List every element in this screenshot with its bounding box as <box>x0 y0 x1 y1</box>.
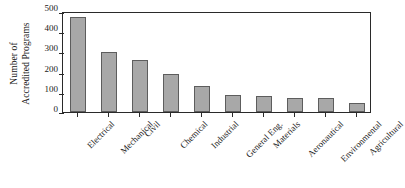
bar <box>225 95 241 112</box>
bar <box>256 96 272 112</box>
y-axis-tick-label: 300 <box>45 44 59 53</box>
bar <box>132 60 148 112</box>
x-axis-category-label-text: Industrial <box>209 119 240 150</box>
bar <box>70 17 86 112</box>
y-axis-tick-mark <box>59 53 64 54</box>
bar-series <box>63 13 370 112</box>
y-axis-title-line-2: Accredited Programs <box>20 10 32 118</box>
y-axis-tick-labels: 0100200300400500 <box>36 8 58 116</box>
y-axis-tick-mark <box>59 94 64 95</box>
bar <box>163 74 179 112</box>
x-axis-category-label: Chemical <box>178 119 209 150</box>
bar <box>349 103 365 112</box>
y-axis-tick-mark <box>59 74 64 75</box>
y-axis-title-line-1: Number of <box>9 10 21 118</box>
x-axis-category-label: Aeronautical <box>305 119 345 159</box>
bar <box>287 98 303 112</box>
y-axis-tick-mark <box>59 33 64 34</box>
bar <box>101 52 117 112</box>
y-axis-tick-label: 100 <box>45 85 59 94</box>
y-axis-tick-mark <box>59 13 64 14</box>
y-axis-tick-label: 400 <box>45 24 59 33</box>
bar <box>194 86 210 112</box>
x-axis-category-label: Electrical <box>86 119 117 150</box>
y-axis-tick-label: 500 <box>45 4 59 13</box>
x-axis-category-label-text: Electrical <box>86 119 117 150</box>
bar <box>318 98 334 112</box>
x-axis-category-label-text: Chemical <box>178 119 209 150</box>
y-axis-tick-label: 200 <box>45 65 59 74</box>
x-axis-category-labels: ElectricalMechanicalCivilChemicalIndustr… <box>62 113 371 188</box>
y-axis-tick-label: 0 <box>54 105 59 114</box>
plot-area <box>62 12 371 113</box>
y-axis-title: Number of Accredited Programs <box>9 10 32 118</box>
x-axis-category-label-text: Aeronautical <box>305 119 345 159</box>
x-axis-category-label: Industrial <box>209 119 240 150</box>
